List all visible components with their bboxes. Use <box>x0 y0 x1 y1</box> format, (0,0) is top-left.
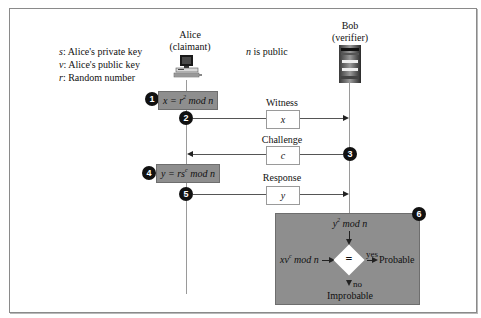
witness-value-box: x <box>266 110 300 129</box>
response-label: Response <box>252 172 312 184</box>
step-badge-2: 2 <box>179 111 193 125</box>
step-badge-4: 4 <box>142 166 156 180</box>
verify-top-input: y2 mod n <box>320 218 380 230</box>
arrow-left-icon <box>187 151 193 157</box>
server-icon <box>339 45 361 83</box>
eq-pre: x = r <box>163 95 183 106</box>
eq-pre: xv <box>280 254 289 265</box>
legend-text: : Alice's private key <box>63 46 142 57</box>
legend-text: : Random number <box>63 72 135 83</box>
response-value-box: y <box>266 186 300 205</box>
compare-operator: = <box>334 252 364 267</box>
top-strip <box>0 0 481 6</box>
public-note-text: is public <box>251 46 288 57</box>
witness-label: Witness <box>252 97 312 109</box>
bob-name: Bob <box>318 20 382 32</box>
alice-role: (claimant) <box>160 41 220 53</box>
eq-pre: y = rs <box>161 168 185 179</box>
step-badge-6: 6 <box>412 207 426 221</box>
yes-result: Probable <box>379 254 415 266</box>
step-badge-3: 3 <box>343 147 357 161</box>
legend-text: : Alice's public key <box>63 59 140 70</box>
eq-post: mod n <box>292 254 319 265</box>
eq-post: mod n <box>188 168 215 179</box>
alice-name: Alice <box>160 29 220 41</box>
step-4-equation: y = rsc mod n <box>156 164 220 183</box>
arrow-right-icon <box>372 257 378 263</box>
arrow-down-icon <box>346 280 352 286</box>
verify-left-input: xvc mod n <box>280 254 319 266</box>
legend-item-public-key: v: Alice's public key <box>59 59 140 71</box>
eq-post: mod n <box>186 95 213 106</box>
arrow-right-icon <box>343 191 349 197</box>
no-result: Improbable <box>315 290 385 302</box>
arrow-right-icon <box>343 115 349 121</box>
challenge-value-box: c <box>266 146 300 165</box>
legend-item-random-number: r: Random number <box>59 72 135 84</box>
bob-role: (verifier) <box>318 32 382 44</box>
legend-item-private-key: s: Alice's private key <box>59 46 142 58</box>
challenge-label: Challenge <box>252 134 312 146</box>
step-1-equation: x = r2 mod n <box>158 91 218 110</box>
eq-post: mod n <box>340 218 367 229</box>
step-badge-5: 5 <box>179 187 193 201</box>
computer-icon <box>170 54 204 80</box>
step-badge-1: 1 <box>145 92 159 106</box>
public-note: n is public <box>246 46 288 58</box>
no-label: no <box>353 278 362 290</box>
